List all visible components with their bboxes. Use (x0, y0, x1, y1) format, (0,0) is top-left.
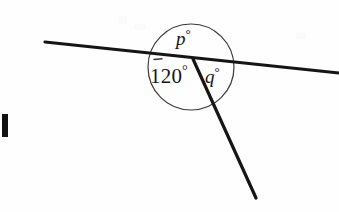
page-edge-mark (2, 114, 8, 137)
scan-artifact (118, 16, 127, 24)
geometry-figure: p° 120° q° (0, 0, 339, 212)
angle-ray (193, 59, 256, 198)
angle-label-p-value: p (176, 28, 186, 49)
diagram-canvas (0, 0, 339, 212)
degree-symbol-icon: ° (215, 64, 220, 79)
straight-line (45, 42, 339, 73)
angle-label-known: 120° (150, 63, 188, 87)
degree-symbol-icon: ° (186, 26, 191, 41)
degree-symbol-icon: ° (182, 62, 188, 78)
angle-label-p: p° (176, 28, 191, 48)
scan-artifact (296, 32, 306, 39)
scan-artifact (134, 24, 146, 30)
angle-label-known-value: 120 (150, 64, 182, 88)
tick-over-one-icon (154, 59, 162, 60)
angle-label-q: q° (205, 66, 220, 86)
angle-label-q-value: q (205, 66, 215, 87)
